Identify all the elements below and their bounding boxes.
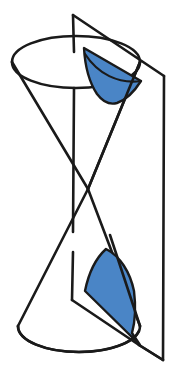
cutting-plane-left-edge-mid (73, 88, 74, 232)
cutting-plane-right-edge (163, 76, 164, 360)
cutting-plane-left-edge-lower (72, 252, 73, 300)
figure-root: Double cone intersected by a vertical pl… (0, 0, 176, 378)
double-cone-plane-diagram: Double cone intersected by a vertical pl… (0, 0, 176, 378)
cutting-plane-left-edge-upper (73, 15, 74, 52)
